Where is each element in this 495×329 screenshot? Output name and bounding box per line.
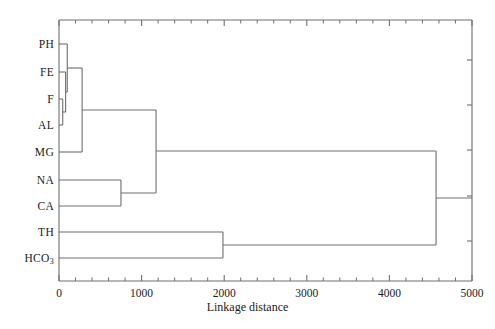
leaf-label-f: F [47,93,54,105]
leaf-label-fe: FE [40,66,54,78]
x-tick-label-5000: 5000 [461,287,484,299]
x-tick-label-1000: 1000 [130,287,153,299]
x-tick-label-4000: 4000 [378,287,401,299]
dendrogram-links [59,44,472,258]
leaf-label-subscript: 3 [50,257,54,266]
leaf-label-th: TH [38,226,54,238]
leaf-label-hco3: HCO3 [25,252,55,264]
leaf-label-na: NA [37,174,54,186]
x-tick-label-2000: 2000 [213,287,236,299]
x-tick-label-3000: 3000 [295,287,318,299]
leaf-label-mg: MG [35,146,54,158]
dendrogram-figure: PHFEFALMGNACATHHCO3 01000200030004000500… [0,0,495,329]
leaf-label-al: AL [38,119,54,131]
x-tick-label-0: 0 [56,287,62,299]
x-axis-label: Linkage distance [0,300,495,315]
leaf-label-ph: PH [39,38,54,50]
dendrogram-plot [0,0,495,329]
leaf-label-ca: CA [37,200,54,212]
